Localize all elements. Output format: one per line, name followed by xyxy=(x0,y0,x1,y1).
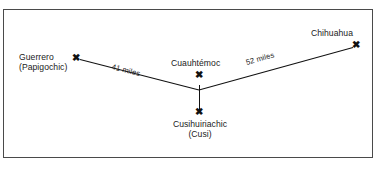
route-distance-diagram: Guerrero (Papigochic) ✖ Cuauhtémoc ✖ ✖ C… xyxy=(0,0,378,170)
node-marker-chihuahua: ✖ xyxy=(352,40,360,50)
node-label-cusihuiriachic-line2: (Cusi) xyxy=(164,129,236,139)
node-label-guerrero-line1: Guerrero xyxy=(19,52,67,62)
node-marker-guerrero: ✖ xyxy=(72,53,80,63)
node-label-cuauhtemoc: Cuauhtémoc xyxy=(171,58,220,68)
node-label-cusihuiriachic-line1: Cusihuiriachic xyxy=(164,119,236,129)
node-marker-cusihuiriachic: ✖ xyxy=(195,107,203,117)
node-label-chihuahua: Chihuahua xyxy=(311,28,353,38)
node-marker-cuauhtemoc: ✖ xyxy=(195,70,203,80)
node-label-guerrero-line2: (Papigochic) xyxy=(19,62,67,72)
node-label-guerrero: Guerrero (Papigochic) xyxy=(19,52,67,72)
node-label-cusihuiriachic: Cusihuiriachic (Cusi) xyxy=(164,119,236,139)
